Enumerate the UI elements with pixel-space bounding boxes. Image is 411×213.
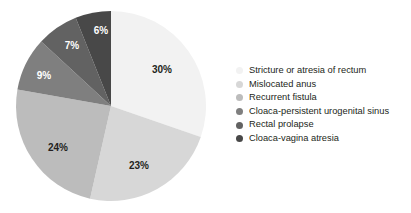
legend-color-swatch-icon xyxy=(236,108,243,115)
legend-item-label: Stricture or atresia of rectum xyxy=(249,64,366,78)
pie-slice-value-label: 9% xyxy=(37,70,52,81)
legend-item[interactable]: Cloaca-vagina atresia xyxy=(236,132,411,146)
legend-color-swatch-icon xyxy=(236,94,243,101)
pie-slice-value-label: 23% xyxy=(129,160,149,171)
legend-item-label: Rectal prolapse xyxy=(249,118,314,132)
pie-slice-value-label: 24% xyxy=(48,142,68,153)
legend-item-label: Recurrent fistula xyxy=(249,91,317,105)
legend-color-swatch-icon xyxy=(236,67,243,74)
legend-item[interactable]: Recurrent fistula xyxy=(236,91,411,105)
pie-slice-value-label: 6% xyxy=(94,25,109,36)
legend-color-swatch-icon xyxy=(236,81,243,88)
legend-item[interactable]: Mislocated anus xyxy=(236,78,411,92)
pie-slice-group xyxy=(16,11,206,201)
legend-item[interactable]: Stricture or atresia of rectum xyxy=(236,64,411,78)
legend-color-swatch-icon xyxy=(236,122,243,129)
legend-item-label: Cloaca-persistent urogenital sinus xyxy=(249,105,389,119)
legend-item[interactable]: Rectal prolapse xyxy=(236,118,411,132)
legend-color-swatch-icon xyxy=(236,135,243,142)
pie-chart-figure: 30%23%24%9%7%6% Stricture or atresia of … xyxy=(0,0,411,213)
legend-item[interactable]: Cloaca-persistent urogenital sinus xyxy=(236,105,411,119)
pie-slice-value-label: 7% xyxy=(65,40,80,51)
legend-item-label: Mislocated anus xyxy=(249,78,316,92)
pie-chart-plot-area: 30%23%24%9%7%6% xyxy=(0,0,225,213)
legend-item-label: Cloaca-vagina atresia xyxy=(249,132,339,146)
pie-slice-value-label: 30% xyxy=(152,64,172,75)
chart-legend: Stricture or atresia of rectumMislocated… xyxy=(236,64,411,146)
pie-chart-svg: 30%23%24%9%7%6% xyxy=(0,0,225,213)
